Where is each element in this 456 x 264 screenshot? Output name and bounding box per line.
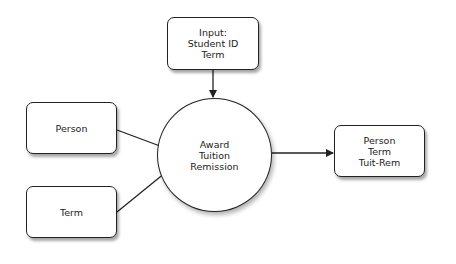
- output-box-label: Person Term Tuit-Rem: [359, 135, 400, 168]
- output-box: Person Term Tuit-Rem: [334, 125, 425, 177]
- person-box: Person: [26, 102, 117, 154]
- input-box-label: Input: Student ID Term: [188, 27, 239, 60]
- process-circle: Award Tuition Remission: [157, 98, 272, 212]
- term-box: Term: [26, 186, 117, 238]
- input-box: Input: Student ID Term: [167, 17, 259, 70]
- process-label: Award Tuition Remission: [190, 139, 238, 172]
- term-box-label: Term: [60, 207, 83, 218]
- person-box-label: Person: [56, 123, 88, 134]
